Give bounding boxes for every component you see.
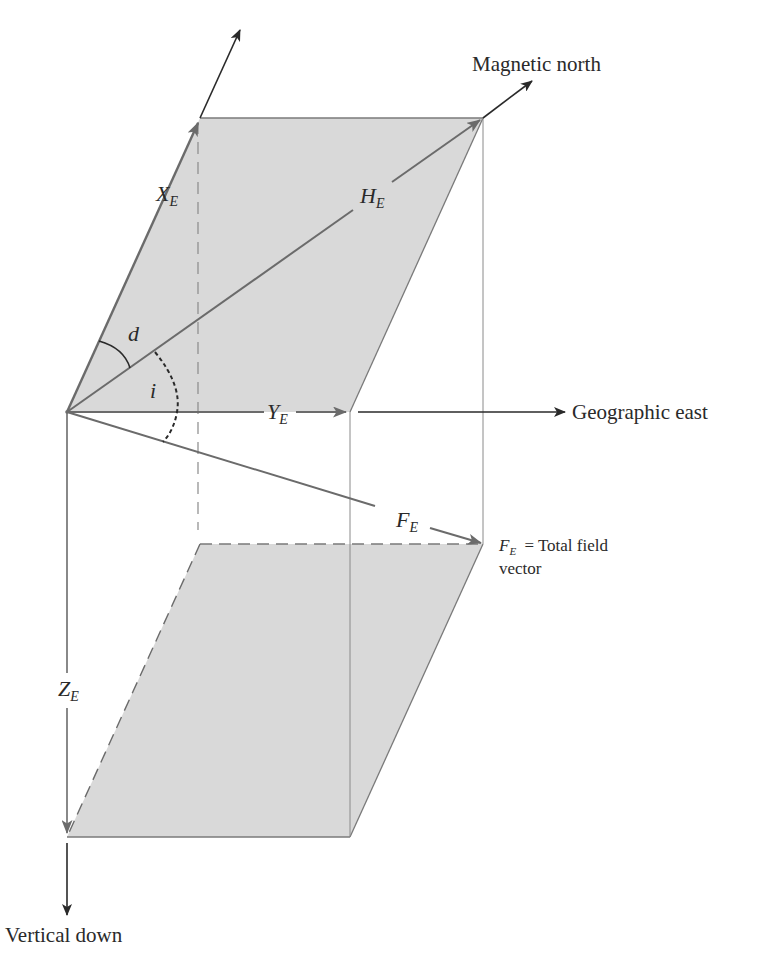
x-component-subscript: E [169,194,178,209]
h-component-subscript: E [376,196,385,211]
y-component-symbol: Y [267,399,279,424]
total-field-legend: FE = Total field [499,537,608,554]
vertical-down-label: Vertical down [5,925,122,946]
x-component-symbol: X [156,181,169,206]
projection-plane [67,544,483,837]
f-component-symbol: F [396,507,409,532]
h-component-label: HE [360,185,384,207]
total-field-legend-subscript: E [509,545,516,557]
f-component-label: FE [396,509,418,531]
y-component-subscript: E [279,412,288,427]
f-component-subscript: E [409,520,418,535]
origin-point [65,410,69,414]
north-axis-arrow [200,30,240,118]
x-component-label: XE [156,183,178,205]
z-component-subscript: E [70,689,79,704]
z-component-label: ZE [58,678,79,700]
total-field-legend-symbol: F [499,536,509,555]
total-field-legend-line2: vector [499,560,541,577]
total-field-vector-lower [67,412,375,506]
h-component-symbol: H [360,183,376,208]
inclination-label: i [150,380,156,402]
magnetic-field-diagram [0,0,762,966]
geographic-east-label: Geographic east [572,402,708,423]
total-field-legend-text: = Total field [524,536,608,555]
y-component-label: YE [267,401,288,423]
z-component-symbol: Z [58,676,70,701]
magnetic-north-arrow [483,81,532,118]
magnetic-north-label: Magnetic north [472,54,601,75]
declination-label: d [128,323,139,345]
total-field-vector-upper [430,528,481,543]
